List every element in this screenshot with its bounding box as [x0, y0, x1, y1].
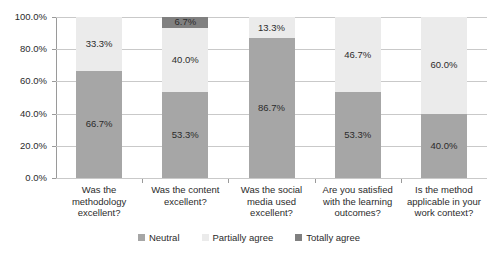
category-label-line: with the learning	[315, 196, 401, 208]
bar-segment[interactable]: 33.3%	[76, 17, 122, 71]
gridline	[56, 178, 487, 179]
data-label: 53.3%	[335, 129, 381, 140]
bar-group: 33.3%66.7%	[76, 17, 122, 178]
bar-segment[interactable]: 6.7%	[162, 17, 208, 28]
data-label: 46.7%	[335, 49, 381, 60]
y-axis-tick-label: 100.0%	[15, 12, 47, 22]
category-label-line: outcomes?	[315, 207, 401, 219]
data-label: 6.7%	[162, 16, 208, 27]
category-label: Are you satisfiedwith the learningoutcom…	[315, 184, 401, 219]
data-label: 86.7%	[249, 102, 295, 113]
y-axis-tick-label: 80.0%	[20, 44, 47, 54]
legend-label: Totally agree	[306, 232, 360, 243]
category-label: Is the methodapplicable in yourwork cont…	[401, 184, 487, 219]
bar-segment[interactable]: 13.3%	[249, 17, 295, 38]
bar-segment[interactable]: 53.3%	[162, 92, 208, 178]
category-label-line: excellent?	[142, 196, 228, 208]
y-axis-line	[56, 17, 57, 179]
x-axis-tick-mark	[315, 179, 316, 183]
bar-segment[interactable]: 40.0%	[162, 28, 208, 92]
data-label: 53.3%	[162, 129, 208, 140]
y-axis-tick-mark	[52, 178, 56, 179]
bar-group: 13.3%86.7%	[249, 17, 295, 178]
y-axis-tick-label: 60.0%	[20, 76, 47, 86]
stacked-bar-chart: 100.0%80.0%60.0%40.0%20.0%0.0% 33.3%66.7…	[0, 0, 498, 264]
x-axis-tick-mark	[401, 179, 402, 183]
category-label: Was the contentexcellent?	[142, 184, 228, 207]
y-axis-tick-label: 0.0%	[25, 173, 47, 183]
category-label-line: work context?	[401, 207, 487, 219]
y-axis-tick-mark	[52, 49, 56, 50]
category-label-line: Was the	[56, 184, 142, 196]
chart-legend: NeutralPartially agreeTotally agree	[0, 232, 498, 243]
bar-group: 46.7%53.3%	[335, 17, 381, 178]
bar-segment[interactable]: 86.7%	[249, 38, 295, 178]
data-label: 33.3%	[76, 38, 122, 49]
category-label-line: media used	[228, 196, 314, 208]
bar-segment[interactable]: 46.7%	[335, 17, 381, 92]
category-label-line: excellent?	[228, 207, 314, 219]
legend-label: Partially agree	[213, 232, 274, 243]
category-label: Was themethodologyexcellent?	[56, 184, 142, 219]
category-label-line: methodology	[56, 196, 142, 208]
legend-item[interactable]: Neutral	[138, 232, 180, 243]
bar-segment[interactable]: 60.0%	[421, 17, 467, 114]
data-label: 40.0%	[162, 54, 208, 65]
legend-label: Neutral	[149, 232, 180, 243]
y-axis-tick-label: 40.0%	[20, 109, 47, 119]
bar-group: 60.0%40.0%	[421, 17, 467, 178]
y-axis-tick-mark	[52, 146, 56, 147]
legend-swatch-icon	[138, 234, 145, 241]
bar-segment[interactable]: 40.0%	[421, 114, 467, 178]
category-label-line: Are you satisfied	[315, 184, 401, 196]
category-label-line: Was the social	[228, 184, 314, 196]
y-axis-tick-mark	[52, 17, 56, 18]
y-axis-tick-mark	[52, 81, 56, 82]
y-axis-tick-mark	[52, 114, 56, 115]
category-label-line: Is the method	[401, 184, 487, 196]
bar-segment[interactable]: 66.7%	[76, 71, 122, 178]
bar-group: 6.7%40.0%53.3%	[162, 17, 208, 178]
legend-item[interactable]: Partially agree	[202, 232, 274, 243]
data-label: 40.0%	[421, 140, 467, 151]
category-label: Was the socialmedia usedexcellent?	[228, 184, 314, 219]
category-label-line: applicable in your	[401, 196, 487, 208]
data-label: 13.3%	[249, 22, 295, 33]
x-axis-tick-mark	[142, 179, 143, 183]
x-axis-tick-mark	[228, 179, 229, 183]
legend-swatch-icon	[295, 234, 302, 241]
data-label: 60.0%	[421, 59, 467, 70]
legend-swatch-icon	[202, 234, 209, 241]
category-label-line: excellent?	[56, 207, 142, 219]
y-axis-tick-label: 20.0%	[20, 141, 47, 151]
legend-item[interactable]: Totally agree	[295, 232, 360, 243]
bar-segment[interactable]: 53.3%	[335, 92, 381, 178]
category-label-line: Was the content	[142, 184, 228, 196]
data-label: 66.7%	[76, 118, 122, 129]
